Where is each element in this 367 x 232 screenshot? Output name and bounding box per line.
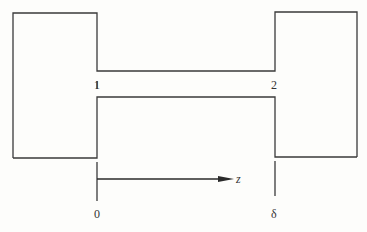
reservoir-channel-diagram: 1 2 z 0 δ [0, 0, 367, 232]
left-reservoir-bottom [13, 97, 357, 158]
origin-label: 0 [94, 207, 100, 221]
delta-label: δ [271, 207, 277, 221]
station-2-label: 2 [271, 78, 277, 92]
upper-boundary [13, 12, 357, 158]
station-1-label: 1 [94, 78, 100, 92]
z-axis-label: z [235, 172, 241, 186]
z-axis-arrowhead [218, 176, 234, 182]
